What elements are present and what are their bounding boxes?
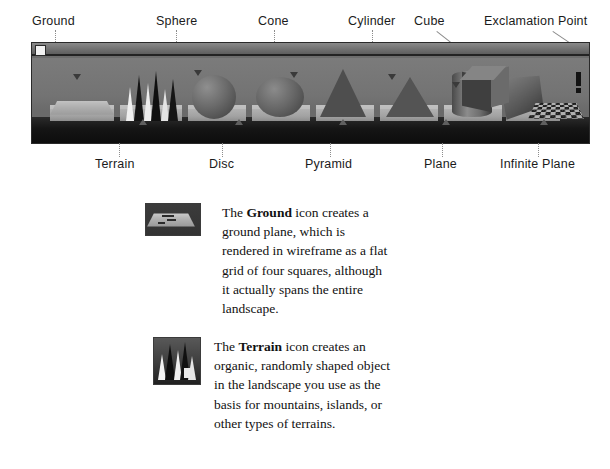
palette-3d-scene[interactable] xyxy=(32,58,589,143)
marker-cone-down xyxy=(290,72,298,78)
shapes-palette-window[interactable] xyxy=(31,42,590,144)
paragraph-lead: The xyxy=(214,339,238,354)
marker-terrain-up xyxy=(139,119,147,125)
ground-icon-detail xyxy=(158,222,165,224)
paragraph-lead: The xyxy=(222,205,246,220)
callout-label-plane: Plane xyxy=(424,157,457,171)
callout-label-cone: Cone xyxy=(258,14,289,28)
leader-line-infinite-plane xyxy=(538,143,539,157)
ground-icon-detail xyxy=(167,219,176,221)
callout-label-sphere: Sphere xyxy=(156,14,198,28)
marker-disc-up xyxy=(235,119,243,125)
marker-sphere-down xyxy=(194,70,202,76)
close-box-icon[interactable] xyxy=(35,45,46,56)
callout-label-terrain: Terrain xyxy=(95,157,135,171)
leader-line-pyramid xyxy=(330,143,331,157)
shape-sphere[interactable] xyxy=(192,75,236,119)
entry-ground: The Ground icon creates a ground plane, … xyxy=(145,203,535,318)
shape-cube[interactable] xyxy=(462,69,508,115)
callout-label-ground: Ground xyxy=(32,14,75,28)
marker-infinite-plane-up xyxy=(540,119,548,125)
callout-label-disc: Disc xyxy=(209,157,234,171)
entry-terrain: The Terrain icon creates an organic, ran… xyxy=(153,337,543,433)
callout-label-cylinder: Cylinder xyxy=(348,14,395,28)
callout-label-cube: Cube xyxy=(414,14,445,28)
marker-plane-up xyxy=(442,119,450,125)
shape-ground[interactable] xyxy=(50,101,114,115)
paragraph-term: Terrain xyxy=(238,339,282,354)
paragraph-rest: icon creates a ground plane, which is re… xyxy=(222,205,387,316)
callout-label-infinite-plane: Infinite Plane xyxy=(500,157,575,171)
leader-line-disc xyxy=(222,143,223,157)
callout-label-exclamation-point: Exclamation Point xyxy=(484,14,587,28)
leader-line-plane xyxy=(442,143,443,157)
shape-pyramid[interactable] xyxy=(386,74,434,117)
ground-icon-detail xyxy=(162,215,174,217)
entry-terrain-paragraph: The Terrain icon creates an organic, ran… xyxy=(214,337,390,433)
exclamation-point-icon[interactable] xyxy=(576,72,581,93)
terrain-icon-highlight xyxy=(184,368,190,378)
shape-cone[interactable] xyxy=(320,66,366,117)
leader-line-terrain xyxy=(119,143,120,157)
palette-title-bar[interactable] xyxy=(32,43,589,56)
shape-disc[interactable] xyxy=(256,77,304,117)
ground-icon[interactable] xyxy=(145,203,201,236)
callout-label-pyramid: Pyramid xyxy=(305,157,352,171)
entry-ground-paragraph: The Ground icon creates a ground plane, … xyxy=(222,203,390,318)
shape-terrain[interactable] xyxy=(120,69,182,121)
marker-cube-down xyxy=(452,82,460,88)
marker-cylinder-down xyxy=(388,74,396,80)
paragraph-term: Ground xyxy=(246,205,292,220)
exclamation-bar xyxy=(576,72,581,86)
terrain-icon[interactable] xyxy=(153,337,201,385)
exclamation-dot xyxy=(576,88,581,93)
marker-pyramid-up xyxy=(339,119,347,125)
shape-infinite-plane[interactable] xyxy=(528,103,584,119)
marker-ground-down xyxy=(73,74,81,80)
